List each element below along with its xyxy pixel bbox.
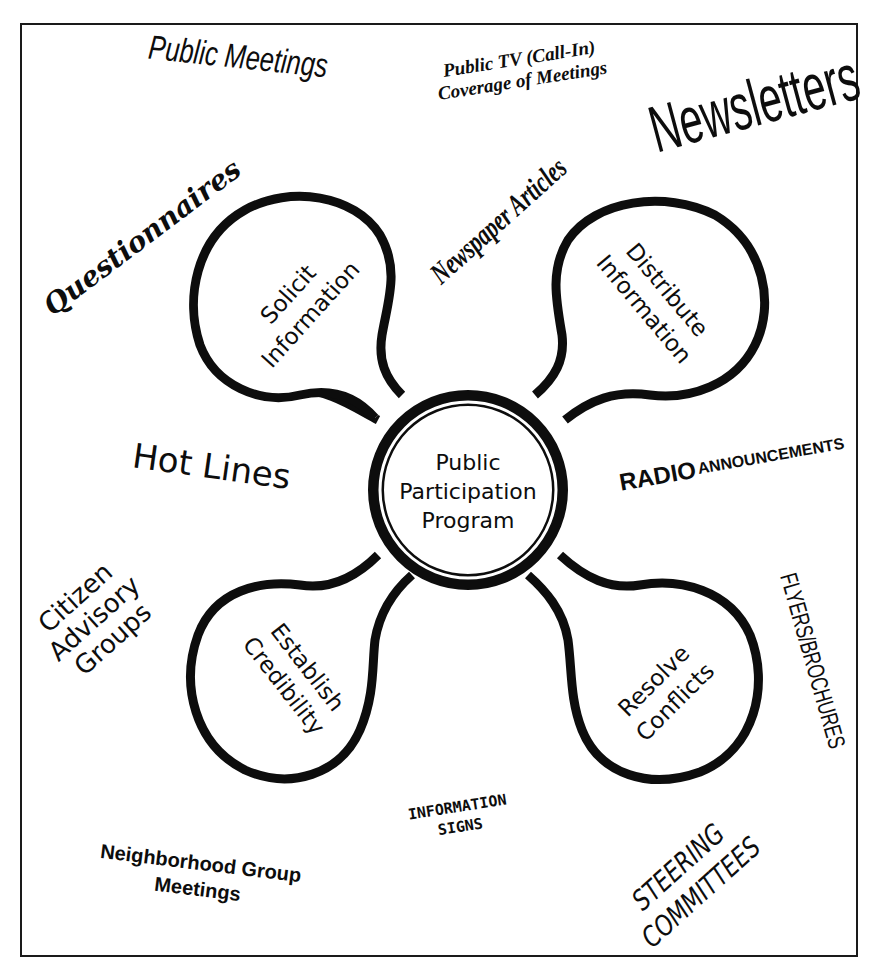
method-public-meetings: Public Meetings: [147, 28, 330, 84]
radio-word: RADIO: [617, 456, 698, 496]
method-newspaper-articles: Newspaper Articles: [423, 151, 573, 291]
method-neighborhood-group-meetings: Neighborhood Group Meetings: [96, 840, 303, 912]
method-newsletters: Newsletters: [641, 39, 867, 166]
hub: Public Participation Program: [376, 398, 560, 582]
lobe-solicit-information: [194, 196, 402, 418]
method-information-signs: INFORMATION SIGNS: [407, 790, 511, 843]
method-citizen-advisory-groups: Citizen Advisory Groups: [24, 549, 165, 688]
hub-label-line2: Participation: [399, 479, 536, 504]
announcements-word: ANNOUNCEMENTS: [696, 434, 845, 477]
method-radio-announcements: RADIO ANNOUNCEMENTS: [617, 430, 846, 496]
hub-label-line1: Public: [435, 450, 500, 475]
lobe-resolve-conflicts: [528, 555, 758, 779]
method-hot-lines: Hot Lines: [130, 435, 293, 497]
public-participation-diagram: Public Participation Program Solicit Inf…: [0, 0, 875, 971]
newsletters-label: Newsletters: [641, 39, 867, 166]
hub-label-line3: Program: [422, 508, 515, 533]
method-steering-committees: STEERING COMMITTEES: [612, 805, 767, 954]
hot-lines-label: Hot Lines: [130, 435, 293, 497]
flyers-brochures-label: FLYERS/BROCHURES: [776, 570, 851, 751]
newspaper-articles-label: Newspaper Articles: [423, 151, 573, 291]
method-flyers-brochures: FLYERS/BROCHURES: [776, 570, 851, 751]
public-meetings-label: Public Meetings: [147, 28, 330, 84]
method-public-tv: Public TV (Call-In) Coverage of Meetings: [433, 35, 609, 104]
